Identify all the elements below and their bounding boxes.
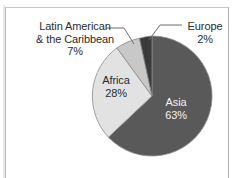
slice-value-latin-american-caribbean: 7%	[29, 45, 121, 58]
slice-label-latin-american-caribbean: Latin American & the Caribbean 7%	[29, 20, 121, 58]
slice-label-europe: Europe 2%	[181, 20, 229, 45]
slice-label-latin-american-caribbean-line1: Latin American	[39, 20, 110, 32]
slice-label-europe-name: Europe	[188, 20, 223, 32]
slice-value-europe: 2%	[181, 33, 229, 46]
slice-label-africa: Africa 28%	[92, 74, 140, 99]
slice-label-africa-name: Africa	[102, 74, 130, 86]
pie-chart-figure: Latin American & the Caribbean 7% Europe…	[0, 0, 233, 178]
slice-value-africa: 28%	[92, 87, 140, 100]
slice-value-asia: 63%	[152, 109, 200, 122]
slice-label-asia: Asia 63%	[152, 96, 200, 121]
slice-label-asia-name: Asia	[166, 96, 187, 108]
slice-label-latin-american-caribbean-line2: & the Caribbean	[36, 33, 114, 45]
